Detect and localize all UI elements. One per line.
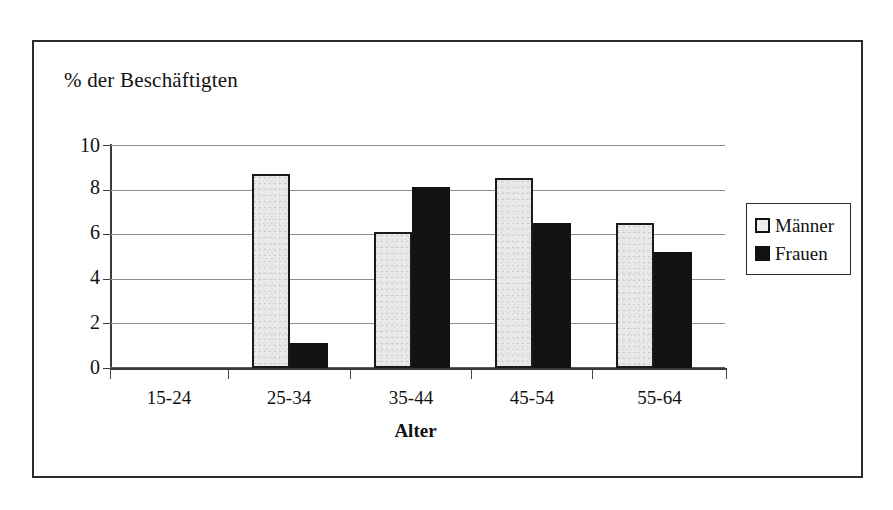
bar-frauen-35-44 [412, 187, 450, 368]
y-tick-label-2: 2 [60, 312, 100, 332]
x-axis-line [110, 368, 727, 370]
x-tick-mark-4 [592, 370, 593, 379]
bar-maenner-35-44 [374, 232, 412, 368]
bar-maenner-55-64 [616, 223, 654, 368]
bar-frauen-45-54 [533, 223, 571, 368]
y-tick-mark-2 [103, 323, 110, 324]
x-tick-mark-0 [110, 370, 111, 379]
y-tick-mark-4 [103, 279, 110, 280]
x-tick-label-35-44: 35-44 [351, 387, 471, 409]
bar-chart-figure: % der Beschäftigten 10 8 6 4 2 0 [0, 0, 893, 510]
legend-item-maenner: Männer [755, 216, 841, 235]
bar-maenner-25-34 [252, 174, 290, 368]
y-tick-label-4: 4 [60, 267, 100, 287]
bar-maenner-45-54 [495, 178, 533, 368]
y-tick-mark-8 [103, 190, 110, 191]
x-tick-label-25-34: 25-34 [229, 387, 349, 409]
x-tick-label-45-54: 45-54 [472, 387, 592, 409]
bar-frauen-55-64 [654, 252, 692, 368]
chart-x-axis-title: Alter [0, 420, 893, 442]
y-tick-label-10: 10 [60, 135, 100, 155]
x-tick-mark-5 [726, 370, 727, 379]
legend-swatch-frauen-icon [755, 246, 770, 261]
x-axis-title-text: Alter [394, 420, 436, 441]
legend-label-maenner: Männer [775, 216, 834, 235]
bar-frauen-25-34 [290, 343, 328, 368]
x-tick-mark-3 [471, 370, 472, 379]
legend-swatch-maenner-icon [755, 218, 770, 233]
chart-legend: Männer Frauen [746, 203, 851, 275]
legend-item-frauen: Frauen [755, 244, 841, 263]
y-tick-label-0: 0 [60, 357, 100, 377]
legend-label-frauen: Frauen [775, 244, 828, 263]
x-tick-mark-1 [228, 370, 229, 379]
x-tick-label-15-24: 15-24 [109, 387, 229, 409]
y-tick-label-6: 6 [60, 222, 100, 242]
x-tick-label-55-64: 55-64 [593, 387, 726, 409]
y-tick-mark-6 [103, 234, 110, 235]
gridline-10 [110, 145, 725, 146]
y-tick-mark-0 [103, 368, 110, 369]
y-tick-mark-10 [103, 145, 110, 146]
y-tick-label-8: 8 [60, 177, 100, 197]
plot-area [110, 145, 725, 368]
x-tick-mark-2 [350, 370, 351, 379]
